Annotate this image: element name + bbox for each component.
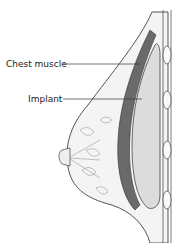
- breast-implant-diagram: Chest muscle Implant: [0, 0, 184, 243]
- rib: [163, 46, 171, 64]
- rib: [163, 141, 171, 159]
- rib: [163, 191, 171, 209]
- nipple: [59, 148, 70, 166]
- implant-label: Implant: [28, 95, 62, 104]
- rib: [163, 91, 171, 109]
- chest-muscle-label: Chest muscle: [6, 60, 67, 69]
- anatomy-illustration: [0, 0, 184, 243]
